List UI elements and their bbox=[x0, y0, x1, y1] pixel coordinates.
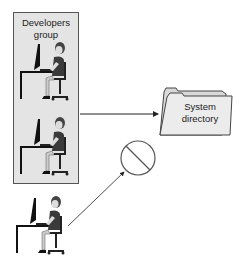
developer-2-person-icon bbox=[20, 117, 69, 176]
folder-label: System directory bbox=[168, 101, 232, 125]
denied-access-arrow bbox=[68, 172, 124, 226]
diagram-canvas bbox=[0, 0, 243, 261]
folder-label-line1: System bbox=[168, 101, 232, 113]
folder-label-line2: directory bbox=[168, 113, 232, 125]
outside-user-person-icon bbox=[16, 196, 65, 255]
developer-1-person-icon bbox=[20, 42, 69, 101]
prohibited-icon bbox=[121, 141, 155, 175]
